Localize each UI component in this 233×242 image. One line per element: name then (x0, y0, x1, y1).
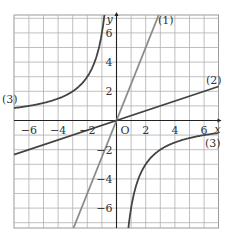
x-tick-label: 6 (201, 124, 208, 137)
series-label: (1) (158, 14, 174, 27)
y-tick-label: 2 (106, 85, 113, 98)
origin-label: O (121, 124, 130, 137)
y-tick-label: 4 (106, 56, 113, 69)
y-axis-label: y (106, 13, 114, 26)
function-graph: −6−4−2246642−2−4−6Oxy (1)(2)(3)(3) (0, 0, 233, 242)
x-tick-label: 4 (171, 124, 178, 137)
x-axis-label: x (215, 123, 222, 136)
y-tick-label: 6 (106, 27, 113, 40)
y-tick-label: −4 (96, 173, 112, 186)
x-tick-label: −6 (21, 124, 37, 137)
series-label: (3) (205, 137, 221, 150)
y-tick-label: −2 (96, 144, 112, 157)
hyperbola-branch-upper-left (14, 15, 104, 108)
x-tick-label: −2 (79, 124, 95, 137)
y-tick-label: −6 (96, 202, 112, 215)
tick-labels: −6−4−2246642−2−4−6Oxy (21, 13, 222, 215)
x-tick-label: −4 (50, 124, 66, 137)
series-label: (3) (2, 93, 18, 106)
series-label: (2) (206, 74, 222, 87)
y-axis-arrow-icon (115, 12, 119, 16)
x-tick-label: 2 (142, 124, 149, 137)
